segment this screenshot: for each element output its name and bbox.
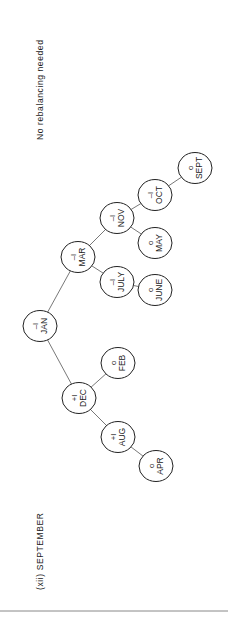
tree-node-june: oJUNE — [138, 275, 172, 306]
avl-tree-diagram: –IJAN–IMAR+IDEC–INOV–IJULYoFEB+IAUG–IOCT… — [0, 0, 228, 624]
node-label: JUNE — [154, 279, 164, 302]
tree-node-apr: oAPR — [139, 451, 173, 482]
node-label: DEC — [78, 389, 88, 407]
tree-node-july: –IJULY — [100, 267, 134, 298]
node-label: FEB — [117, 354, 127, 371]
node-label: AUG — [117, 428, 127, 446]
tree-node-aug: +IAUG — [101, 422, 135, 453]
tree-node-nov: –INOV — [100, 203, 134, 234]
tree-node-mar: –IMAR — [61, 242, 95, 273]
node-label: NOV — [116, 208, 126, 227]
node-label: JAN — [39, 318, 49, 334]
tree-node-jan: –IJAN — [23, 311, 57, 342]
node-label: MAR — [77, 248, 87, 267]
tree-node-feb: oFEB — [101, 348, 135, 379]
tree-node-sept: oSEPT — [178, 153, 212, 184]
tree-node-may: oMAY — [138, 228, 172, 259]
tree-node-oct: –IOCT — [138, 180, 172, 211]
node-label: APR — [155, 457, 165, 474]
node-label: OCT — [154, 186, 164, 204]
note-text: No rebalancing needed — [35, 39, 45, 140]
tree-nodes: –IJAN–IMAR+IDEC–INOV–IJULYoFEB+IAUG–IOCT… — [23, 153, 212, 482]
node-label: SEPT — [194, 157, 204, 179]
node-label: JULY — [116, 272, 126, 292]
caption-text: (xii) SEPTEMBER — [35, 513, 45, 590]
tree-node-dec: +IDEC — [62, 383, 96, 414]
node-label: MAY — [154, 234, 164, 252]
